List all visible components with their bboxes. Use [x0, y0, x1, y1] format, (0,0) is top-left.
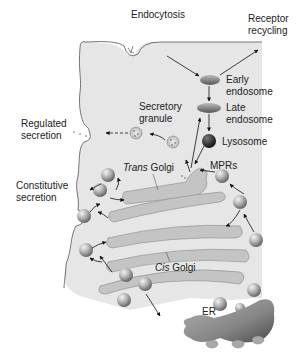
label-late-endosome: Late endosome [226, 102, 273, 125]
label-line: Late [226, 102, 273, 114]
label-line: endosome [226, 114, 273, 126]
label-line: secretion [16, 192, 68, 204]
label-line: Early [226, 74, 273, 86]
secretory-granule [130, 127, 142, 139]
label-cis-golgi: Cis Golgi [155, 262, 196, 274]
label-cis: Cis [155, 262, 169, 273]
label-early-endosome: Early endosome [226, 74, 273, 97]
label-line: Constitutive [16, 180, 68, 192]
label-lysosome: Lysosome [222, 136, 267, 148]
label-regulated-secretion: Regulated secretion [21, 118, 67, 141]
label-line: Receptor [248, 13, 289, 25]
label-endocytosis: Endocytosis [131, 9, 185, 21]
label-line: secretion [21, 130, 67, 142]
late-endosome [197, 103, 221, 113]
label-line: granule [139, 113, 182, 125]
label-secretory-granule: Secretory granule [139, 101, 182, 124]
label-line: Secretory [139, 101, 182, 113]
secretory-granule [167, 136, 179, 148]
label-trans: Trans [123, 162, 148, 173]
label-golgi: Golgi [148, 162, 174, 173]
label-golgi: Golgi [169, 262, 195, 273]
lysosome [202, 134, 216, 148]
label-line: Regulated [21, 118, 67, 130]
endoplasmic-reticulum [184, 299, 275, 342]
label-trans-golgi: Trans Golgi [123, 162, 174, 174]
label-receptor-recycling: Receptor recycling [248, 13, 289, 36]
label-er: ER [202, 306, 216, 318]
early-endosome [200, 75, 220, 85]
endocytic-pit [128, 46, 134, 53]
trafficking-diagram [0, 0, 304, 353]
label-constitutive-secretion: Constitutive secretion [16, 180, 68, 203]
label-mprs: MPRs [210, 160, 237, 172]
label-line: recycling [248, 25, 289, 37]
label-line: endosome [226, 86, 273, 98]
